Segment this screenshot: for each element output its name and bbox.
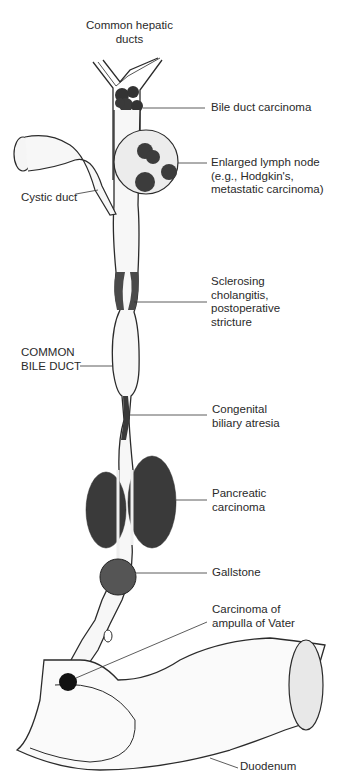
label-enlarged-lymph-node: Enlarged lymph node (e.g., Hodgkin's, me…	[211, 156, 323, 197]
label-carcinoma-ampulla: Carcinoma of ampulla of Vater	[212, 603, 295, 630]
label-line: Pancreatic	[212, 487, 266, 501]
label-line: ducts	[86, 33, 173, 47]
label-line: postoperative	[211, 302, 280, 316]
label-common-hepatic-ducts: Common hepatic ducts	[86, 19, 173, 46]
label-line: Sclerosing	[211, 275, 280, 289]
label-line: BILE DUCT	[21, 360, 81, 374]
bile-duct-carcinoma-shape	[115, 86, 143, 112]
label-line: carcinoma	[212, 501, 266, 515]
label-cystic-duct: Cystic duct	[21, 191, 77, 205]
biliary-diagram	[0, 0, 346, 781]
label-common-bile-duct: COMMON BILE DUCT	[21, 346, 81, 373]
label-line: COMMON	[21, 346, 81, 360]
label-line: metastatic carcinoma)	[211, 183, 323, 197]
ampulla-carcinoma-shape	[59, 673, 77, 691]
label-line: ampulla of Vater	[212, 617, 295, 631]
enlarged-lymph-node-shape	[114, 130, 178, 194]
label-line: biliary atresia	[212, 417, 280, 431]
label-bile-duct-carcinoma: Bile duct carcinoma	[211, 101, 311, 115]
label-line: Congenital	[212, 403, 280, 417]
gallstone-shape	[100, 559, 136, 595]
label-line: (e.g., Hodgkin's,	[211, 170, 323, 184]
label-congenital-biliary-atresia: Congenital biliary atresia	[212, 403, 280, 430]
label-sclerosing-cholangitis: Sclerosing cholangitis, postoperative st…	[211, 275, 280, 329]
label-pancreatic-carcinoma: Pancreatic carcinoma	[212, 487, 266, 514]
label-line: Enlarged lymph node	[211, 156, 323, 170]
duodenum-shape	[17, 638, 325, 770]
label-duodenum: Duodenum	[240, 760, 296, 774]
label-line: Carcinoma of	[212, 603, 295, 617]
label-line: stricture	[211, 316, 280, 330]
label-line: cholangitis,	[211, 289, 280, 303]
label-line: Common hepatic	[86, 19, 173, 33]
label-gallstone: Gallstone	[212, 566, 261, 580]
